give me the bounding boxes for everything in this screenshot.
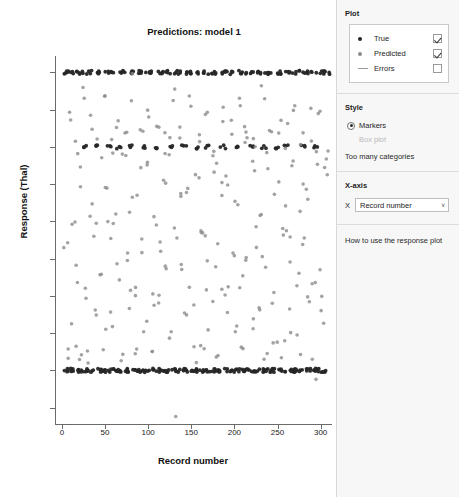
- series-true: [62, 69, 331, 374]
- style-note: Too many categories: [337, 146, 459, 171]
- xaxis-section-heading: X-axis: [337, 172, 459, 196]
- legend-card: True Predicted Errors: [349, 24, 449, 83]
- x-tick-label: 0: [60, 428, 64, 437]
- x-axis-label: Record number: [55, 455, 331, 466]
- plot-panel: Predictions: model 1 Response (Thal) Rec…: [0, 0, 335, 497]
- legend-label-errors: Errors: [372, 64, 433, 73]
- xaxis-key-label: X: [345, 201, 355, 210]
- legend-item-errors[interactable]: Errors: [358, 61, 442, 76]
- x-tick-mark: [105, 425, 106, 429]
- radio-markers-label: Markers: [359, 121, 386, 130]
- x-tick-mark: [148, 425, 149, 429]
- radio-markers-icon[interactable]: [347, 122, 355, 130]
- legend-label-true: True: [372, 34, 433, 43]
- x-tick-label: 150: [185, 428, 198, 437]
- xaxis-dropdown-value: Record number: [360, 201, 441, 210]
- legend-item-true[interactable]: True: [358, 31, 442, 46]
- plot-section: Plot True Predicted Errors: [337, 0, 459, 83]
- true-marker-icon: [358, 37, 372, 41]
- xaxis-section: X-axis X Record number ∨: [337, 172, 459, 224]
- xaxis-dropdown[interactable]: Record number ∨: [355, 198, 449, 212]
- legend-label-predicted: Predicted: [372, 49, 433, 58]
- checkbox-errors[interactable]: [433, 64, 442, 73]
- checkbox-true[interactable]: [433, 34, 442, 43]
- plot-area[interactable]: [55, 56, 332, 425]
- y-axis-label: Response (Thal): [18, 127, 29, 277]
- x-tick-label: 300: [314, 428, 327, 437]
- x-tick-label: 200: [228, 428, 241, 437]
- x-tick-mark: [62, 425, 63, 429]
- page-title: Predictions: model 1: [55, 26, 333, 37]
- plot-section-heading: Plot: [337, 0, 459, 24]
- help-link[interactable]: How to use the response plot: [337, 225, 459, 245]
- predicted-marker-icon: [358, 52, 372, 56]
- x-tick-label: 50: [101, 428, 110, 437]
- scatter-plot: [56, 56, 332, 424]
- chevron-down-icon: ∨: [441, 202, 445, 208]
- errors-line-icon: [358, 68, 372, 70]
- legend-item-predicted[interactable]: Predicted: [358, 46, 442, 61]
- xaxis-row: X Record number ∨: [337, 196, 459, 224]
- x-tick-mark: [278, 425, 279, 429]
- x-tick-mark: [191, 425, 192, 429]
- checkbox-predicted[interactable]: [433, 49, 442, 58]
- x-tick-mark: [234, 425, 235, 429]
- radio-box-plot: Box plot: [337, 132, 459, 146]
- style-section-heading: Style: [337, 94, 459, 118]
- radio-markers[interactable]: Markers: [337, 118, 459, 132]
- x-tick-mark: [321, 425, 322, 429]
- help-section: How to use the response plot: [337, 225, 459, 245]
- options-sidebar: Plot True Predicted Errors: [336, 0, 459, 497]
- x-tick-label: 100: [141, 428, 154, 437]
- series-predicted: [62, 72, 330, 418]
- style-section: Style Markers Box plot Too many categori…: [337, 94, 459, 171]
- radio-box-plot-label: Box plot: [359, 135, 386, 144]
- x-tick-label: 250: [271, 428, 284, 437]
